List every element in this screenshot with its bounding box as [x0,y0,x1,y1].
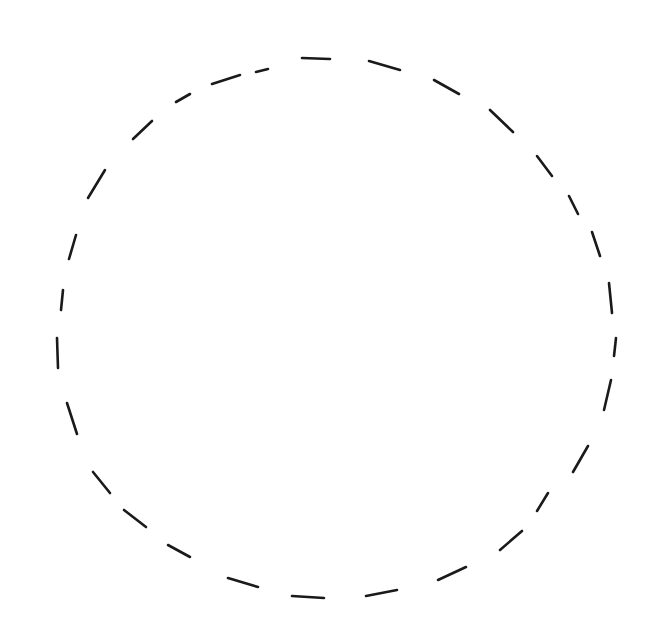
dashed-circle-drawing [0,0,655,634]
dashed-circle [57,58,616,598]
